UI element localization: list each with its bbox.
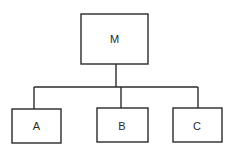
node-m-label: M — [110, 33, 119, 45]
node-m: M — [81, 14, 148, 64]
node-b: B — [97, 108, 148, 142]
node-c-label: C — [193, 120, 201, 132]
hierarchy-diagram: M A B C — [0, 0, 235, 153]
connectors — [34, 64, 198, 109]
node-a: A — [12, 109, 61, 143]
node-c: C — [173, 108, 222, 142]
node-b-label: B — [118, 120, 125, 132]
node-a-label: A — [33, 120, 41, 132]
